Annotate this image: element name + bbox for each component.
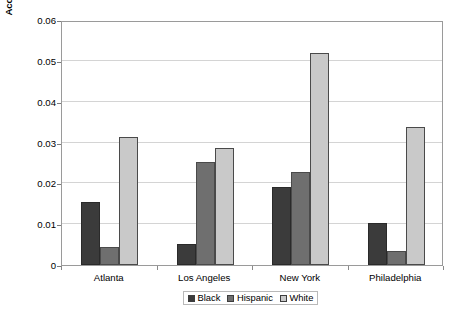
gridline bbox=[62, 101, 442, 102]
x-category-label-los-angeles: Los Angeles bbox=[157, 272, 253, 284]
legend-item-black[interactable]: Black bbox=[188, 293, 220, 303]
bar-atlanta-hispanic bbox=[100, 247, 119, 265]
legend-item-white[interactable]: White bbox=[280, 293, 313, 303]
x-category-label-atlanta: Atlanta bbox=[61, 272, 157, 284]
bar-los-angeles-white bbox=[215, 148, 234, 265]
legend-label: Hispanic bbox=[237, 293, 273, 303]
legend-label: White bbox=[289, 293, 313, 303]
x-tick-mark bbox=[61, 266, 62, 270]
bar-chart: Accessibility Index (weighted by size of… bbox=[0, 0, 456, 315]
y-tick-label: 0.02 bbox=[10, 179, 56, 189]
x-tick-mark bbox=[348, 266, 349, 270]
legend-swatch-icon bbox=[188, 295, 195, 302]
bar-atlanta-white bbox=[119, 137, 138, 265]
y-tick-label: 0.05 bbox=[10, 57, 56, 67]
y-tick-label: 0.04 bbox=[10, 98, 56, 108]
x-tick-mark bbox=[157, 266, 158, 270]
bar-atlanta-black bbox=[81, 202, 100, 265]
legend: BlackHispanicWhite bbox=[183, 291, 318, 305]
y-tick-label: 0.01 bbox=[10, 220, 56, 230]
x-category-label-new-york: New York bbox=[252, 272, 348, 284]
y-tick-label: 0.03 bbox=[10, 139, 56, 149]
legend-swatch-icon bbox=[227, 295, 234, 302]
gridline bbox=[62, 60, 442, 61]
bar-los-angeles-black bbox=[177, 244, 196, 265]
bar-new-york-hispanic bbox=[291, 172, 310, 265]
x-tick-mark bbox=[443, 266, 444, 270]
x-tick-mark bbox=[252, 266, 253, 270]
y-tick-label: 0 bbox=[10, 261, 56, 271]
bar-philadelphia-white bbox=[406, 127, 425, 265]
x-category-label-philadelphia: Philadelphia bbox=[348, 272, 444, 284]
bar-new-york-black bbox=[272, 187, 291, 265]
legend-swatch-icon bbox=[280, 295, 287, 302]
plot-area bbox=[61, 21, 443, 266]
bar-los-angeles-hispanic bbox=[196, 162, 215, 265]
bar-philadelphia-hispanic bbox=[387, 251, 406, 265]
legend-label: Black bbox=[198, 293, 221, 303]
bar-philadelphia-black bbox=[368, 223, 387, 265]
bottom-caption bbox=[24, 309, 434, 315]
bar-new-york-white bbox=[310, 53, 329, 265]
legend-item-hispanic[interactable]: Hispanic bbox=[227, 293, 272, 303]
y-tick-label: 0.06 bbox=[10, 16, 56, 26]
